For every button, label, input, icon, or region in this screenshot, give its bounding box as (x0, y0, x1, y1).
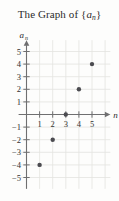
data-point (51, 138, 55, 142)
x-axis-arrow-icon (105, 112, 111, 118)
data-point (37, 163, 41, 167)
data-point (77, 87, 81, 91)
y-axis-label-subscript: n (25, 35, 28, 41)
y-axis-tick-label: 5 (17, 47, 21, 57)
x-axis-tick-label: 5 (90, 119, 94, 129)
y-axis-tick-label: 3 (17, 72, 21, 82)
page-title: The Graph of {an} (0, 8, 119, 22)
y-axis-tick-label: 1 (17, 97, 21, 107)
scatter-plot: 12345 54321−1−2−3−4−5 n a n (0, 26, 119, 201)
data-point (90, 62, 94, 66)
data-point (64, 112, 68, 116)
title-prefix: The Graph of { (18, 8, 87, 20)
y-axis-tick-label: −3 (12, 147, 21, 157)
x-axis-tick-label: 4 (77, 119, 82, 129)
x-axis-tick-label: 2 (51, 119, 55, 129)
y-axis-arrow-icon (24, 40, 30, 46)
title-suffix: } (96, 8, 101, 20)
sequence-graph-figure: The Graph of {an} 12345 54321−1−2−3−4−5 … (0, 0, 119, 201)
y-axis-tick-label: 2 (17, 84, 21, 94)
x-axis-label: n (113, 110, 118, 120)
y-axis-tick-label: −5 (12, 173, 21, 183)
y-axis-tick-label: −4 (12, 160, 22, 170)
y-axis-tick-label: −1 (12, 122, 21, 132)
x-axis-tick-label: 3 (64, 119, 68, 129)
y-axis-tick-label: −2 (12, 135, 21, 145)
y-axis-label: a (20, 30, 25, 40)
x-axis-tick-label: 1 (37, 119, 41, 129)
axis-labels: n a n (20, 30, 119, 120)
